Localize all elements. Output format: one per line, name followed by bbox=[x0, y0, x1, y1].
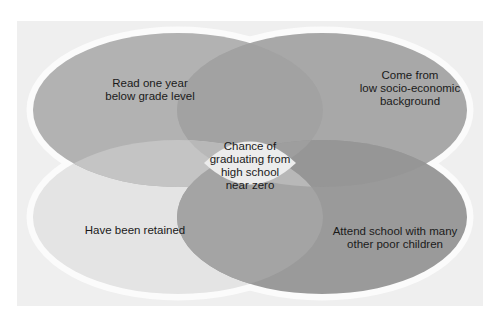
label-have-been-retained: Have been retained bbox=[50, 224, 220, 237]
label-poor-school: Attend school with many other poor child… bbox=[315, 225, 475, 251]
label-read-below-grade: Read one year below grade level bbox=[60, 77, 240, 103]
label-low-ses: Come from low socio-economic background bbox=[335, 69, 485, 108]
label-center: Chance of graduating from high school ne… bbox=[200, 140, 300, 192]
